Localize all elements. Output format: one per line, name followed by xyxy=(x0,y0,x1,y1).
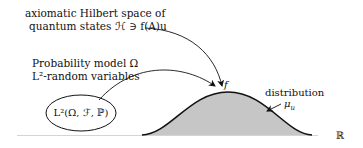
hilbert-label-line1: axiomatic Hilbert space of xyxy=(25,7,155,20)
hilbert-label-line2: quantum states ℋ ∋ f(A)u xyxy=(25,20,155,33)
arrow-measure-to-curve xyxy=(267,104,281,111)
probability-label-line1: Probability model Ω xyxy=(32,57,132,70)
probability-model-label: Probability model Ω L²-random variables xyxy=(32,57,132,83)
probability-label-line2: L²-random variables xyxy=(32,70,132,83)
real-axis-label: ℝ xyxy=(336,129,344,142)
l2-space-label: L²(Ω, ℱ, ℙ) xyxy=(46,106,116,119)
arrow-hilbert-to-f xyxy=(145,28,222,86)
measure-subscript: u xyxy=(291,104,296,112)
curve-point-f-label: f xyxy=(224,78,228,91)
measure-mu-u-label: μu xyxy=(284,97,295,115)
hilbert-space-label: axiomatic Hilbert space of quantum state… xyxy=(25,7,155,33)
